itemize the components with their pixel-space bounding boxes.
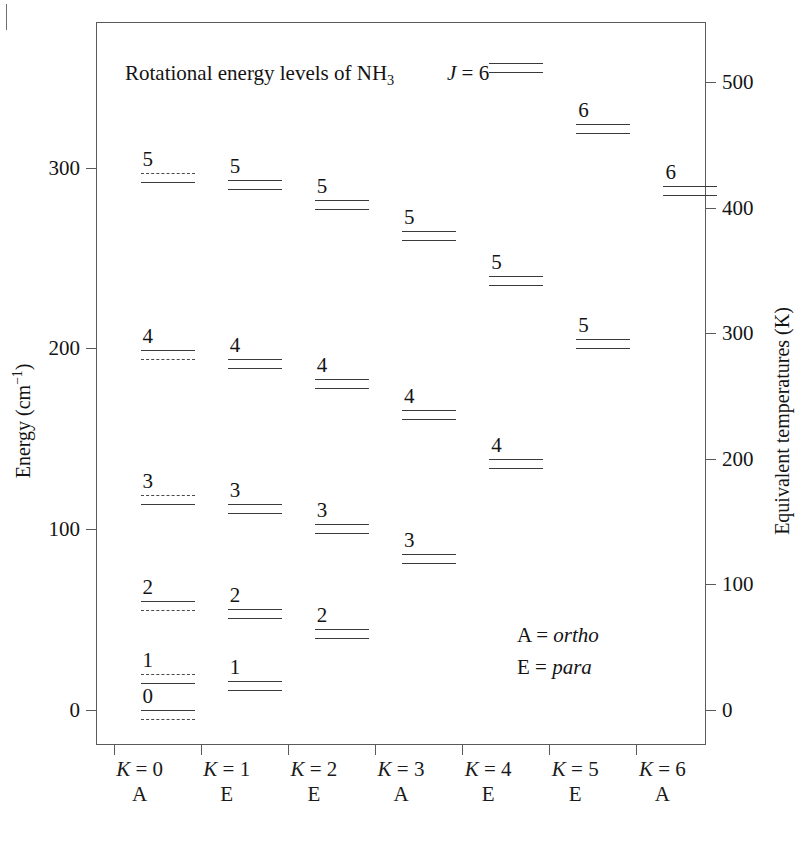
- column-label-k1: K = 1E: [203, 758, 250, 806]
- level-j-label: 4: [143, 326, 154, 347]
- level-line-solid: [141, 504, 195, 505]
- level-j-label: 5: [317, 176, 328, 197]
- level-line-solid: [489, 63, 543, 64]
- level-line-solid: [228, 189, 282, 190]
- level-line-solid: [489, 72, 543, 73]
- symmetry-label: E: [465, 782, 512, 806]
- level-line-solid: [228, 504, 282, 505]
- level-line-solid: [141, 182, 195, 183]
- level-line-solid: [402, 419, 456, 420]
- level-line-solid: [402, 554, 456, 555]
- level-line-solid: [315, 638, 369, 639]
- level-line-solid: [315, 629, 369, 630]
- y-tick-right: [705, 208, 716, 209]
- plot-area: Rotational energy levels of NH3 J = 6 A …: [96, 22, 706, 745]
- level-j-label: 1: [143, 650, 154, 671]
- chart-title: Rotational energy levels of NH3: [125, 61, 394, 89]
- symmetry-label: E: [290, 782, 337, 806]
- level-j-label: 2: [230, 585, 241, 606]
- level-line-solid: [315, 200, 369, 201]
- y-tick-label-right: 200: [722, 448, 754, 469]
- y-tick-left: [86, 710, 97, 711]
- y-tick-right: [705, 333, 716, 334]
- level-line-solid: [228, 180, 282, 181]
- level-j-label: 5: [491, 252, 502, 273]
- symmetry-label: A: [116, 782, 163, 806]
- level-line-solid: [402, 410, 456, 411]
- level-line-solid: [228, 359, 282, 360]
- level-j-label: 6: [578, 100, 589, 121]
- y-axis-label-left-text: Energy (cm−1): [11, 364, 33, 479]
- level-line-solid: [576, 348, 630, 349]
- x-tick: [375, 744, 376, 755]
- level-line-dashed: [141, 173, 195, 174]
- symmetry-label: E: [203, 782, 250, 806]
- x-tick: [462, 744, 463, 755]
- level-j-label: 0: [143, 686, 154, 707]
- level-line-solid: [402, 563, 456, 564]
- legend-row-para: E = para: [517, 655, 592, 680]
- level-line-solid: [315, 524, 369, 525]
- level-j-label: 5: [230, 156, 241, 177]
- legend-row-ortho: A = ortho: [517, 623, 599, 648]
- y-tick-label-left: 0: [70, 699, 81, 720]
- column-label-k6: K = 6A: [639, 758, 686, 806]
- y-tick-right: [705, 82, 716, 83]
- page-edge-rule: [6, 4, 7, 30]
- y-tick-right: [705, 459, 716, 460]
- y-tick-label-right: 400: [722, 197, 754, 218]
- column-label-k5: K = 5E: [552, 758, 599, 806]
- y-tick-label-left: 300: [49, 157, 81, 178]
- column-label-k0: K = 0A: [116, 758, 163, 806]
- level-line-solid: [228, 681, 282, 682]
- symmetry-label: A: [639, 782, 686, 806]
- k-quantum-label: K = 1: [203, 758, 250, 780]
- y-tick-label-right: 300: [722, 323, 754, 344]
- level-line-solid: [141, 350, 195, 351]
- y-tick-right: [705, 584, 716, 585]
- k-quantum-label: K = 6: [639, 758, 686, 780]
- level-line-dashed: [141, 359, 195, 360]
- level-line-solid: [663, 186, 717, 187]
- level-line-solid: [489, 285, 543, 286]
- symmetry-label: E: [552, 782, 599, 806]
- x-tick: [549, 744, 550, 755]
- level-line-solid: [228, 609, 282, 610]
- level-line-dashed: [141, 610, 195, 611]
- k-quantum-label: K = 0: [116, 758, 163, 780]
- level-line-solid: [663, 195, 717, 196]
- level-j-label: 5: [143, 149, 154, 170]
- k-quantum-label: K = 4: [465, 758, 512, 780]
- column-label-k4: K = 4E: [465, 758, 512, 806]
- k-quantum-label: K = 3: [378, 758, 425, 780]
- level-j-label: 4: [491, 435, 502, 456]
- column-label-k2: K = 2E: [290, 758, 337, 806]
- level-j-label: 3: [230, 480, 241, 501]
- level-j-label: 2: [143, 577, 154, 598]
- k-quantum-label: K = 5: [552, 758, 599, 780]
- level-j-label: 3: [317, 500, 328, 521]
- level-line-solid: [141, 710, 195, 711]
- level-j-label: 2: [317, 605, 328, 626]
- level-line-dashed: [141, 495, 195, 496]
- level-line-solid: [402, 240, 456, 241]
- figure-rotational-energy-levels: Energy (cm−1) Equivalent temperatures (K…: [0, 0, 804, 842]
- level-line-solid: [228, 690, 282, 691]
- level-line-solid: [315, 209, 369, 210]
- level-line-dashed: [141, 674, 195, 675]
- y-tick-right: [705, 710, 716, 711]
- level-line-solid: [576, 133, 630, 134]
- level-j-label: 1: [230, 657, 241, 678]
- level-j-label: 5: [404, 207, 415, 228]
- level-j-label: 4: [230, 335, 241, 356]
- level-line-solid: [315, 388, 369, 389]
- level-line-solid: [315, 379, 369, 380]
- j-annotation: J = 6: [447, 61, 489, 86]
- y-axis-label-right: Equivalent temperatures (K): [771, 307, 794, 535]
- level-line-solid: [576, 124, 630, 125]
- y-tick-label-left: 100: [49, 519, 81, 540]
- y-tick-label-right: 0: [722, 699, 733, 720]
- y-tick-left: [86, 529, 97, 530]
- level-line-solid: [228, 618, 282, 619]
- level-line-solid: [489, 459, 543, 460]
